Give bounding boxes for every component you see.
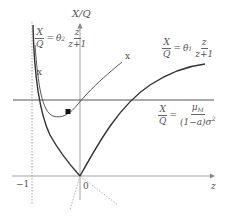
curve-x-label-left: x: [37, 68, 42, 77]
dotted-line-left: [70, 176, 80, 210]
point-marker: [66, 109, 71, 114]
equation-horizontal-level: XQ = μM (1−a)σ2: [158, 103, 217, 127]
equation-theta1: XQ = θ1 zz+1: [162, 38, 214, 59]
x-axis-label: z: [211, 182, 216, 191]
equation-theta2: XQ = θ2 zz+1: [35, 28, 87, 49]
neg-one-label: −1: [16, 180, 29, 189]
y-axis-label: X/Q: [72, 9, 91, 19]
curve-x-label-right: x: [125, 52, 130, 61]
origin-label: 0: [83, 182, 89, 191]
curve-x: [35, 45, 122, 117]
